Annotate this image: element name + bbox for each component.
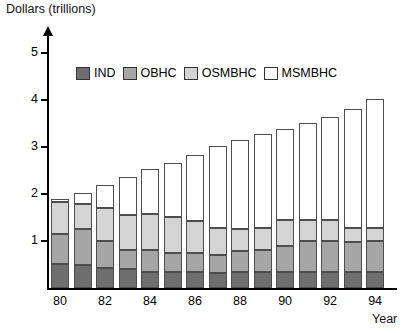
bar-segment-obhc-82	[96, 241, 114, 268]
x-axis-title: Year	[372, 312, 397, 326]
y-tick-label: 2	[14, 187, 38, 200]
bar-segment-msmbhc-89	[254, 134, 272, 228]
bar-segment-ind-85	[164, 272, 182, 288]
bar-81	[74, 193, 92, 288]
bar-segment-obhc-93	[344, 242, 362, 273]
bar-segment-ind-92	[321, 272, 339, 288]
x-tick-label-92: 92	[315, 294, 345, 308]
bar-segment-ind-88	[231, 272, 249, 288]
bar-89	[254, 134, 272, 288]
bar-92	[321, 117, 339, 288]
legend-label: OBHC	[141, 66, 177, 80]
bar-84	[141, 169, 159, 288]
bar-segment-msmbhc-94	[366, 99, 384, 228]
bar-85	[164, 163, 182, 288]
bar-82	[96, 185, 114, 288]
bar-segment-ind-86	[186, 272, 204, 288]
bar-segment-obhc-80	[51, 234, 69, 264]
legend-item-msmbhc: MSMBHC	[264, 66, 338, 80]
bar-87	[209, 146, 227, 288]
legend-swatch-icon-obhc	[123, 67, 137, 80]
bar-segment-obhc-87	[209, 255, 227, 273]
bar-segment-obhc-91	[299, 241, 317, 273]
stacked-bar-chart: Dollars (trillions) 12345 80828486889092…	[0, 0, 418, 333]
bar-segment-msmbhc-85	[164, 163, 182, 218]
bar-91	[299, 123, 317, 288]
chart-legend: INDOBHCOSMBHCMSMBHC	[76, 66, 337, 80]
bar-segment-obhc-86	[186, 253, 204, 272]
bar-86	[186, 155, 204, 288]
y-tick-label-wrap: 3	[10, 140, 38, 153]
bar-segment-ind-84	[141, 272, 159, 288]
bar-segment-osmbhc-92	[321, 220, 339, 241]
bar-83	[119, 177, 137, 288]
y-tick-label: 4	[14, 93, 38, 106]
bar-segment-osmbhc-80	[51, 202, 69, 234]
legend-label: IND	[94, 66, 116, 80]
bar-segment-msmbhc-93	[344, 109, 362, 228]
x-tick-label-80: 80	[45, 294, 75, 308]
bar-segment-ind-94	[366, 272, 384, 288]
bar-segment-osmbhc-86	[186, 221, 204, 253]
bar-segment-ind-89	[254, 272, 272, 288]
bar-segment-osmbhc-85	[164, 217, 182, 252]
legend-swatch-icon-msmbhc	[264, 67, 278, 80]
bar-segment-msmbhc-86	[186, 155, 204, 221]
bar-93	[344, 109, 362, 288]
y-tick-label: 3	[14, 140, 38, 153]
x-tick-label-86: 86	[180, 294, 210, 308]
bar-segment-msmbhc-90	[276, 129, 294, 220]
legend-swatch-icon-osmbhc	[184, 67, 198, 80]
y-tick-label-wrap: 2	[10, 187, 38, 200]
legend-item-obhc: OBHC	[123, 66, 177, 80]
bar-segment-msmbhc-91	[299, 123, 317, 220]
bar-segment-osmbhc-84	[141, 214, 159, 251]
y-tick-label-wrap: 4	[10, 93, 38, 106]
bar-segment-osmbhc-93	[344, 228, 362, 242]
bar-segment-osmbhc-89	[254, 228, 272, 250]
legend-item-osmbhc: OSMBHC	[184, 66, 257, 80]
x-tick-label-90: 90	[270, 294, 300, 308]
legend-swatch-icon-ind	[76, 67, 90, 80]
x-axis-line	[47, 288, 397, 290]
bar-segment-obhc-88	[231, 251, 249, 272]
bar-88	[231, 140, 249, 288]
y-tick-label: 1	[14, 234, 38, 247]
y-tick-label-wrap: 1	[10, 234, 38, 247]
x-tick-label-84: 84	[135, 294, 165, 308]
bar-segment-obhc-85	[164, 253, 182, 273]
bar-segment-osmbhc-83	[119, 215, 137, 250]
bar-segment-msmbhc-87	[209, 146, 227, 228]
x-tick-label-94: 94	[360, 294, 390, 308]
bar-segment-ind-87	[209, 273, 227, 288]
bar-80	[51, 199, 69, 288]
y-axis-title: Dollars (trillions)	[6, 2, 96, 16]
y-tick-label: 5	[14, 46, 38, 59]
bar-90	[276, 129, 294, 288]
legend-item-ind: IND	[76, 66, 116, 80]
y-tick-label-wrap: 5	[10, 46, 38, 59]
bar-segment-ind-91	[299, 272, 317, 288]
bar-segment-osmbhc-94	[366, 228, 384, 241]
bar-segment-obhc-84	[141, 250, 159, 271]
bar-segment-msmbhc-82	[96, 185, 114, 209]
bar-segment-msmbhc-80	[51, 199, 69, 202]
bar-segment-obhc-81	[74, 229, 92, 266]
bar-segment-osmbhc-88	[231, 229, 249, 252]
bar-segment-obhc-83	[119, 250, 137, 269]
bar-segment-ind-82	[96, 268, 114, 288]
x-tick-label-82: 82	[90, 294, 120, 308]
bar-segment-msmbhc-81	[74, 193, 92, 204]
legend-label: OSMBHC	[202, 66, 257, 80]
bar-segment-ind-90	[276, 272, 294, 288]
bar-segment-obhc-90	[276, 246, 294, 272]
bar-segment-osmbhc-87	[209, 228, 227, 255]
bar-segment-msmbhc-84	[141, 169, 159, 214]
bar-segment-osmbhc-91	[299, 220, 317, 241]
bar-segment-osmbhc-81	[74, 204, 92, 228]
bar-segment-ind-80	[51, 264, 69, 288]
bar-segment-obhc-92	[321, 241, 339, 273]
bar-segment-osmbhc-90	[276, 220, 294, 246]
bar-segment-msmbhc-88	[231, 140, 249, 228]
bar-segment-ind-81	[74, 265, 92, 288]
